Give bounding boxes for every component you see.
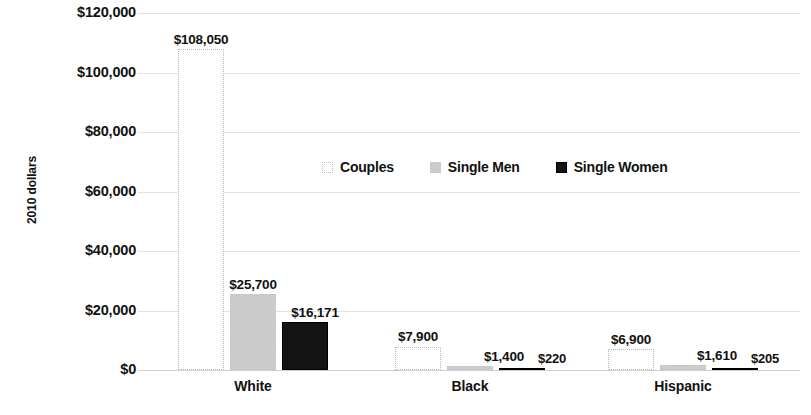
legend-swatch-icon: [322, 162, 333, 173]
bar-single-women-black: [499, 368, 545, 371]
gridline: [138, 370, 800, 371]
bar-single-men-white: [230, 294, 276, 370]
legend-item-single-women[interactable]: Single Women: [556, 159, 668, 175]
legend-label: Single Women: [574, 159, 668, 175]
gridline: [138, 132, 800, 133]
legend-item-single-men[interactable]: Single Men: [430, 159, 520, 175]
bar-couples-hispanic: [608, 349, 654, 370]
gridline: [138, 13, 800, 14]
bar-couples-black: [395, 347, 441, 371]
bar-couples-white: [178, 49, 224, 370]
bar-single-women-white: [282, 322, 328, 370]
legend-label: Single Men: [448, 159, 520, 175]
legend-label: Couples: [340, 159, 394, 175]
y-axis-ticks: $120,000$100,000$80,000$60,000$40,000$20…: [0, 0, 136, 415]
legend-swatch-icon: [556, 162, 567, 173]
y-tick-label: $120,000: [18, 4, 136, 20]
gridline: [138, 251, 800, 252]
plot-area: [138, 13, 800, 370]
y-tick-label: $80,000: [18, 123, 136, 139]
y-tick-label: $60,000: [18, 183, 136, 199]
x-category-label-hispanic: Hispanic: [623, 378, 743, 394]
chart-legend: CouplesSingle MenSingle Women: [322, 159, 668, 175]
y-tick-label: $40,000: [18, 242, 136, 258]
y-tick-label: $20,000: [18, 302, 136, 318]
y-tick-label: $0: [18, 361, 136, 377]
gridline: [138, 192, 800, 193]
gridline: [138, 73, 800, 74]
bar-single-men-hispanic: [660, 365, 706, 370]
bar-chart: 2010 dollars $120,000$100,000$80,000$60,…: [0, 0, 811, 415]
x-category-label-white: White: [193, 378, 313, 394]
bar-single-women-hispanic: [712, 368, 758, 371]
x-category-label-black: Black: [410, 378, 530, 394]
legend-item-couples[interactable]: Couples: [322, 159, 394, 175]
y-tick-label: $100,000: [18, 64, 136, 80]
bar-single-men-black: [447, 366, 493, 370]
legend-swatch-icon: [430, 162, 441, 173]
